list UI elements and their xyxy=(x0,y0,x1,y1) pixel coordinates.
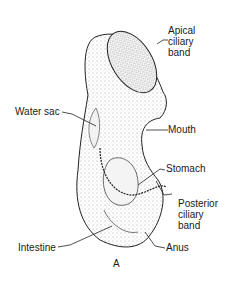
label-posterior-ciliary-band: Posterior ciliary band xyxy=(178,198,218,231)
label-stomach: Stomach xyxy=(166,163,205,174)
label-line: ciliary xyxy=(168,36,195,47)
label-line: band xyxy=(178,220,218,231)
label-mouth: Mouth xyxy=(168,124,196,135)
label-line: Posterior xyxy=(178,198,218,209)
figure-caption: A xyxy=(113,258,120,269)
larva-diagram: Apical ciliary band Water sac Mouth Stom… xyxy=(0,0,235,294)
label-anus: Anus xyxy=(166,242,189,253)
label-line: ciliary xyxy=(178,209,218,220)
label-line: Apical xyxy=(168,25,195,36)
label-intestine: Intestine xyxy=(18,242,56,253)
label-water-sac: Water sac xyxy=(15,106,60,117)
label-apical-ciliary-band: Apical ciliary band xyxy=(168,25,195,58)
label-line: band xyxy=(168,47,195,58)
